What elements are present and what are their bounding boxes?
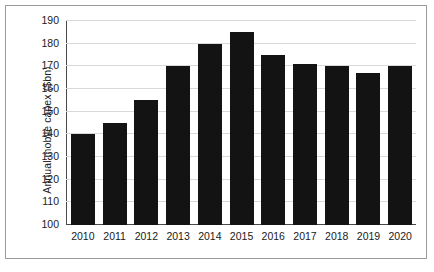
bar-slot — [353, 21, 385, 225]
bar-2017[interactable] — [293, 64, 317, 225]
x-tick-label-2019: 2019 — [353, 230, 385, 242]
y-tick-label-160: 160 — [41, 82, 59, 94]
bar-2010[interactable] — [71, 134, 95, 225]
bar-slot — [130, 21, 162, 225]
x-tick-label-2018: 2018 — [321, 230, 353, 242]
x-tick-label-2012: 2012 — [130, 230, 162, 242]
bar-2020[interactable] — [388, 66, 412, 225]
bar-slot — [194, 21, 226, 225]
plot-area: 100110120130140150160170180190 — [66, 21, 416, 225]
x-tick-label-2017: 2017 — [289, 230, 321, 242]
bar-slot — [99, 21, 131, 225]
y-tick-label-130: 130 — [41, 150, 59, 162]
bar-slot — [162, 21, 194, 225]
x-tick-label-2010: 2010 — [67, 230, 99, 242]
x-tick-label-2014: 2014 — [194, 230, 226, 242]
x-tick-label-2013: 2013 — [162, 230, 194, 242]
y-tick-label-180: 180 — [41, 37, 59, 49]
x-tick-label-2016: 2016 — [257, 230, 289, 242]
chart-figure-frame: Annual mobile capex ($bn) 10011012013014… — [5, 5, 427, 259]
y-tick-label-140: 140 — [41, 127, 59, 139]
y-tick-label-190: 190 — [41, 14, 59, 26]
y-tick-label-100: 100 — [41, 218, 59, 230]
bar-2014[interactable] — [198, 44, 222, 225]
bar-2018[interactable] — [325, 66, 349, 225]
bar-2012[interactable] — [134, 100, 158, 225]
x-tick-label-2015: 2015 — [226, 230, 258, 242]
x-tick-label-2020: 2020 — [384, 230, 416, 242]
bar-slot — [321, 21, 353, 225]
x-tick-label-2011: 2011 — [99, 230, 131, 242]
y-tick-label-120: 120 — [41, 173, 59, 185]
y-tick-label-110: 110 — [42, 195, 59, 207]
x-axis-tick-labels: 2010201120122013201420152016201720182019… — [67, 230, 416, 242]
bar-2013[interactable] — [166, 66, 190, 225]
y-tick-label-150: 150 — [41, 105, 59, 117]
bar-2015[interactable] — [230, 32, 254, 225]
y-tick-label-170: 170 — [41, 59, 59, 71]
bar-slot — [226, 21, 258, 225]
bar-2016[interactable] — [261, 55, 285, 225]
bar-slot — [257, 21, 289, 225]
bar-2019[interactable] — [356, 73, 380, 225]
bar-slot — [384, 21, 416, 225]
bar-slot — [289, 21, 321, 225]
bar-slot — [67, 21, 99, 225]
bar-2011[interactable] — [103, 123, 127, 225]
bars-group — [67, 21, 416, 225]
